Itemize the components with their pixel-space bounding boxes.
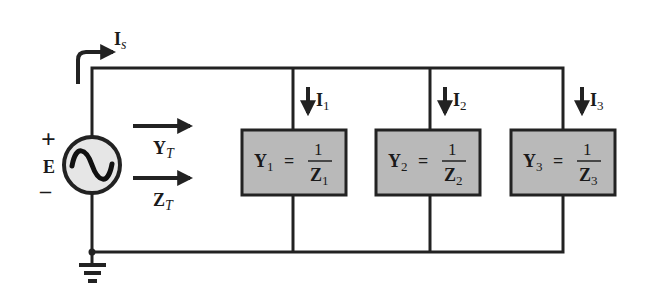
branch-3-numerator: 1 [583, 140, 592, 159]
ac-source [64, 137, 120, 193]
branch-1-numerator: 1 [314, 140, 323, 159]
branch-1-current-label: I1 [316, 90, 330, 113]
plus-sign: + [41, 125, 56, 154]
branch-1-equals: = [284, 151, 294, 171]
minus-sign: – [39, 178, 52, 203]
branch-2-current-label: I2 [453, 90, 467, 113]
branch-2: I2 Y2 = 1 Z2 [376, 87, 480, 195]
branch-2-numerator: 1 [448, 140, 457, 159]
source-current-label: Is [114, 29, 127, 52]
total-admittance-label: YT [153, 138, 175, 161]
branch-3-current-label: I3 [590, 90, 604, 113]
ground-icon [79, 249, 106, 284]
parallel-circuit-diagram: + E – Is YT ZT I1 Y1 = 1 Z1 I2 Y2 = 1 Z2… [0, 0, 647, 296]
branch-2-equals: = [418, 151, 428, 171]
source-label: E [43, 157, 55, 177]
total-impedance-label: ZT [153, 190, 174, 213]
branch-3-equals: = [553, 151, 563, 171]
